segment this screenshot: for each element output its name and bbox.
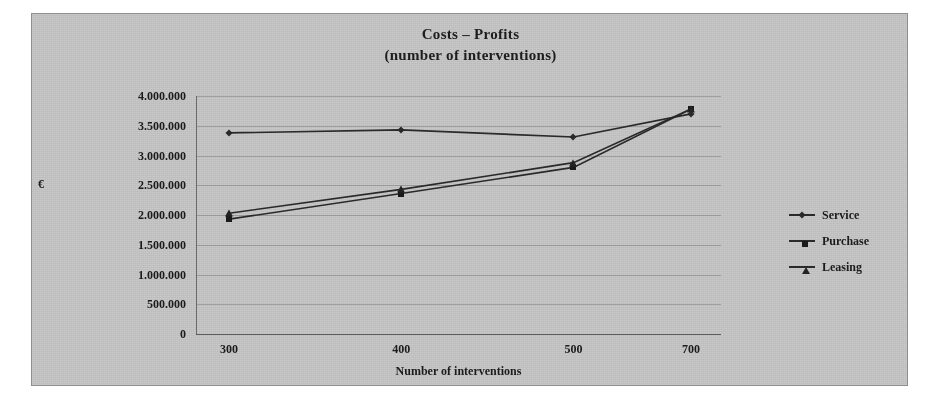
- chart-legend: ServicePurchaseLeasing: [789, 202, 901, 280]
- x-axis-line: [196, 334, 721, 335]
- series-line-leasing: [229, 109, 691, 213]
- series-line-purchase: [229, 109, 691, 219]
- chart-title: Costs – Profits: [32, 24, 909, 45]
- y-axis-title: €: [38, 177, 44, 192]
- square-marker-icon: [789, 236, 815, 246]
- data-point-purchase-300: [226, 216, 232, 222]
- chart-title-block: Costs – Profits (number of interventions…: [32, 24, 909, 66]
- plot-area: 300400500700: [196, 96, 721, 334]
- y-tick-label: 4.000.000: [138, 89, 186, 104]
- y-tick-label: 2.000.000: [138, 208, 186, 223]
- triangle-marker-icon: [789, 262, 815, 272]
- legend-label: Leasing: [822, 260, 862, 275]
- y-tick-label: 2.500.000: [138, 178, 186, 193]
- y-axis-tick-labels: 0500.0001.000.0001.500.0002.000.0002.500…: [66, 96, 192, 334]
- x-tick-label: 300: [220, 342, 238, 357]
- x-axis-title: Number of interventions: [196, 364, 721, 379]
- x-tick-label: 400: [392, 342, 410, 357]
- x-tick-label: 700: [682, 342, 700, 357]
- x-tick-label: 500: [564, 342, 582, 357]
- legend-label: Service: [822, 208, 859, 223]
- data-point-leasing-300: [225, 210, 233, 217]
- y-tick-label: 1.500.000: [138, 237, 186, 252]
- series-line-service: [229, 114, 691, 137]
- y-tick-label: 0: [180, 327, 186, 342]
- legend-label: Purchase: [822, 234, 869, 249]
- legend-item-purchase: Purchase: [789, 228, 901, 254]
- diamond-marker-icon: [789, 210, 815, 220]
- chart-figure: Costs – Profits (number of interventions…: [31, 13, 908, 386]
- y-tick-label: 500.000: [147, 297, 186, 312]
- data-point-leasing-400: [397, 186, 405, 193]
- legend-item-service: Service: [789, 202, 901, 228]
- y-tick-label: 3.500.000: [138, 118, 186, 133]
- data-point-leasing-700: [687, 106, 695, 113]
- series-lines: [196, 96, 721, 334]
- y-tick-label: 1.000.000: [138, 267, 186, 282]
- data-point-leasing-500: [569, 159, 577, 166]
- legend-item-leasing: Leasing: [789, 254, 901, 280]
- y-tick-label: 3.000.000: [138, 148, 186, 163]
- chart-subtitle: (number of interventions): [32, 45, 909, 66]
